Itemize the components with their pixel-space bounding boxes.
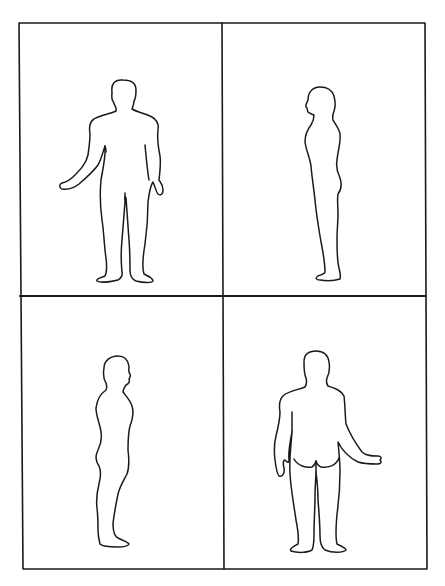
body-back-view (274, 351, 381, 552)
body-diagram-grid (0, 0, 445, 586)
body-side-view-left (305, 87, 341, 281)
grid-lines (19, 23, 427, 569)
body-side-view-right (96, 356, 133, 547)
body-front-view (60, 80, 163, 283)
